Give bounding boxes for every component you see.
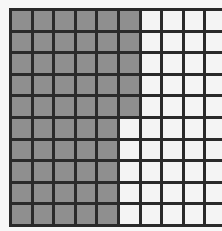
shaded-cell (77, 141, 99, 163)
shaded-cell (55, 162, 77, 184)
unshaded-cell (142, 162, 164, 184)
shaded-cell (34, 33, 56, 55)
shaded-cell (98, 205, 120, 227)
shaded-cell (12, 141, 34, 163)
shaded-cell (98, 11, 120, 33)
unshaded-cell (163, 205, 185, 227)
unshaded-cell (185, 97, 207, 119)
shaded-cell (34, 97, 56, 119)
shaded-cell (34, 141, 56, 163)
unshaded-cell (163, 76, 185, 98)
shaded-cell (98, 33, 120, 55)
shaded-cell (98, 76, 120, 98)
shaded-cell (98, 97, 120, 119)
unshaded-cell (185, 33, 207, 55)
shaded-cell (77, 76, 99, 98)
shaded-cell (12, 205, 34, 227)
unshaded-cell (163, 11, 185, 33)
shaded-cell (77, 205, 99, 227)
unshaded-cell (185, 11, 207, 33)
shaded-cell (55, 205, 77, 227)
shaded-cell (120, 76, 142, 98)
shaded-cell (77, 11, 99, 33)
shaded-cell (34, 11, 56, 33)
unshaded-cell (142, 54, 164, 76)
unshaded-cell (206, 141, 222, 163)
unshaded-cell (206, 119, 222, 141)
unshaded-cell (142, 76, 164, 98)
hundred-grid (9, 8, 222, 227)
shaded-cell (77, 97, 99, 119)
shaded-cell (98, 119, 120, 141)
shaded-cell (77, 162, 99, 184)
unshaded-cell (185, 54, 207, 76)
unshaded-cell (185, 119, 207, 141)
unshaded-cell (163, 162, 185, 184)
unshaded-cell (206, 184, 222, 206)
shaded-cell (120, 11, 142, 33)
unshaded-cell (185, 162, 207, 184)
unshaded-cell (142, 184, 164, 206)
unshaded-cell (206, 11, 222, 33)
shaded-cell (55, 11, 77, 33)
shaded-cell (98, 54, 120, 76)
unshaded-cell (163, 54, 185, 76)
unshaded-cell (185, 141, 207, 163)
unshaded-cell (120, 141, 142, 163)
shaded-cell (12, 184, 34, 206)
shaded-cell (12, 97, 34, 119)
unshaded-cell (163, 97, 185, 119)
shaded-cell (120, 54, 142, 76)
unshaded-cell (163, 184, 185, 206)
unshaded-cell (142, 205, 164, 227)
shaded-cell (34, 205, 56, 227)
shaded-cell (12, 76, 34, 98)
shaded-cell (120, 97, 142, 119)
shaded-cell (55, 76, 77, 98)
shaded-cell (34, 184, 56, 206)
shaded-cell (34, 54, 56, 76)
shaded-cell (98, 141, 120, 163)
shaded-cell (12, 162, 34, 184)
unshaded-cell (142, 33, 164, 55)
shaded-cell (34, 119, 56, 141)
unshaded-cell (120, 205, 142, 227)
unshaded-cell (120, 162, 142, 184)
unshaded-cell (142, 11, 164, 33)
unshaded-cell (206, 76, 222, 98)
unshaded-cell (206, 33, 222, 55)
shaded-cell (12, 11, 34, 33)
shaded-cell (77, 119, 99, 141)
unshaded-cell (120, 184, 142, 206)
shaded-cell (34, 162, 56, 184)
unshaded-cell (206, 54, 222, 76)
unshaded-cell (142, 141, 164, 163)
unshaded-cell (185, 76, 207, 98)
unshaded-cell (185, 205, 207, 227)
unshaded-cell (163, 119, 185, 141)
shaded-cell (77, 54, 99, 76)
shaded-cell (12, 54, 34, 76)
unshaded-cell (185, 184, 207, 206)
unshaded-cell (206, 205, 222, 227)
shaded-cell (98, 162, 120, 184)
unshaded-cell (120, 119, 142, 141)
unshaded-cell (163, 141, 185, 163)
shaded-cell (77, 33, 99, 55)
shaded-cell (55, 141, 77, 163)
shaded-cell (55, 33, 77, 55)
shaded-cell (55, 119, 77, 141)
shaded-cell (77, 184, 99, 206)
shaded-cell (55, 184, 77, 206)
unshaded-cell (206, 97, 222, 119)
shaded-cell (34, 76, 56, 98)
shaded-cell (55, 54, 77, 76)
shaded-cell (12, 33, 34, 55)
shaded-cell (55, 97, 77, 119)
unshaded-cell (206, 162, 222, 184)
unshaded-cell (142, 119, 164, 141)
unshaded-cell (163, 33, 185, 55)
shaded-cell (120, 33, 142, 55)
unshaded-cell (142, 97, 164, 119)
shaded-cell (98, 184, 120, 206)
